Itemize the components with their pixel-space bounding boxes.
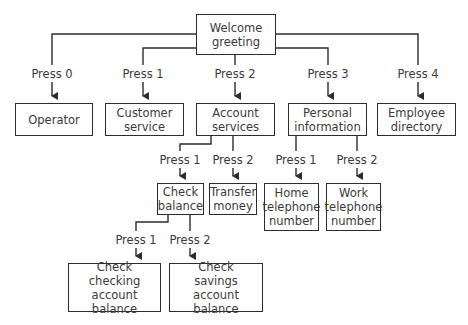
account-press-1-label: Press 1: [159, 153, 200, 167]
node-check-checking-balance: Check checking account balance: [68, 263, 161, 312]
node-customer-service: Customer service: [105, 103, 184, 136]
balance-press-2-label: Press 2: [169, 233, 210, 247]
node-work-telephone-number: Work telephone number: [326, 183, 381, 231]
press-0-label: Press 0: [31, 67, 72, 81]
node-home-telephone-number: Home telephone number: [264, 183, 319, 231]
node-check-balance: Check balance: [157, 183, 204, 215]
node-account-services: Account services: [196, 103, 275, 136]
node-check-savings-balance: Check savings account balance: [169, 263, 263, 312]
personal-press-1-label: Press 1: [275, 153, 316, 167]
node-welcome-greeting: Welcome greeting: [196, 14, 276, 55]
node-transfer-money: Transfer money: [209, 183, 257, 215]
node-operator: Operator: [15, 103, 93, 136]
press-3-label: Press 3: [307, 67, 348, 81]
press-1-label: Press 1: [122, 67, 163, 81]
node-personal-information: Personal information: [288, 103, 367, 136]
personal-press-2-label: Press 2: [336, 153, 377, 167]
press-4-label: Press 4: [397, 67, 438, 81]
account-press-2-label: Press 2: [212, 153, 253, 167]
press-2-label: Press 2: [214, 67, 255, 81]
balance-press-1-label: Press 1: [115, 233, 156, 247]
node-employee-directory: Employee directory: [377, 103, 456, 136]
